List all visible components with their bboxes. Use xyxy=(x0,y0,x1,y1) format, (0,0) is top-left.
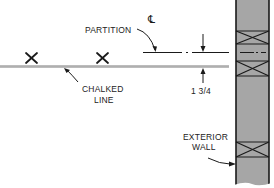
partition-label: PARTITION xyxy=(85,25,131,35)
partition-layout-diagram: PARTITION ℄ 1 3/4 CHALKED LINE xyxy=(0,0,274,188)
chalked-line-leader-arrow xyxy=(64,68,78,82)
x-mark-icon xyxy=(97,53,108,63)
exterior-wall xyxy=(234,0,272,188)
dimension-arrow-bottom xyxy=(201,68,206,83)
partition-leader-arrow xyxy=(137,29,157,52)
chalked-label-line2: LINE xyxy=(94,95,114,105)
chalked-label-line1: CHALKED xyxy=(82,84,124,94)
exterior-wall-leader-arrow xyxy=(208,158,236,167)
centerline-symbol: ℄ xyxy=(147,13,155,26)
x-mark-icon xyxy=(26,53,37,63)
dimension-arrow-top xyxy=(201,34,206,52)
exterior-label-line2: WALL xyxy=(192,142,216,152)
dimension-label: 1 3/4 xyxy=(191,86,211,96)
exterior-label-line1: EXTERIOR xyxy=(183,132,228,142)
